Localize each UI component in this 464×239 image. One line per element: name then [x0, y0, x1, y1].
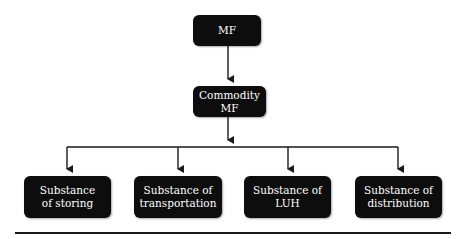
node-label-line2: distribution	[367, 197, 429, 210]
diagram-canvas: MF Commodity MF Substance of storing Sub…	[0, 0, 464, 239]
node-substance-of-transportation: Substance of transportation	[134, 176, 222, 218]
node-commodity-mf: Commodity MF	[193, 86, 266, 117]
node-substance-of-storing: Substance of storing	[24, 176, 111, 218]
node-label-line1: Substance of	[253, 184, 322, 197]
node-label-line1: Substance	[40, 184, 95, 197]
node-label-line2: LUH	[275, 197, 299, 210]
node-substance-of-luh: Substance of LUH	[244, 176, 331, 218]
node-label-line1: Substance of	[364, 184, 433, 197]
node-commodity-mf-line1: Commodity	[199, 89, 260, 102]
node-label-line1: Substance of	[144, 184, 213, 197]
node-label-line2: of storing	[42, 197, 93, 210]
node-commodity-mf-line2: MF	[220, 102, 238, 115]
node-label-line2: transportation	[140, 197, 217, 210]
node-substance-of-distribution: Substance of distribution	[355, 176, 442, 218]
node-mf-label: MF	[218, 24, 236, 37]
node-mf: MF	[193, 15, 261, 46]
